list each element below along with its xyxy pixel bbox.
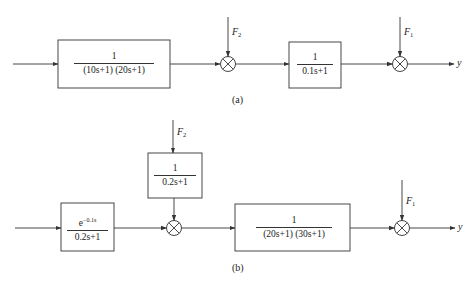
- b-f2-label: F2: [177, 127, 186, 140]
- b-block-main-transfer-function: 1 (20s+1) (30s+1): [256, 215, 332, 240]
- a-f2-label: F2: [232, 27, 241, 40]
- a-f1-label: F1: [404, 27, 413, 40]
- a-block2-transfer-function: 1 0.1s+1: [297, 52, 333, 77]
- b-block-delay-transfer-function: e−0.1s 0.2s+1: [67, 215, 108, 243]
- a-summing-junction-2: [393, 57, 408, 72]
- b-block-dist-transfer-function: 1 0.2s+1: [154, 163, 196, 188]
- b-f1-label: F1: [406, 196, 415, 209]
- b-caption: (b): [232, 262, 244, 273]
- a-caption: (a): [232, 94, 243, 105]
- a-block1-transfer-function: 1 (10s+1) (20s+1): [74, 51, 154, 76]
- a-summing-junction-1: [221, 57, 236, 72]
- b-summing-junction-2: [395, 221, 410, 236]
- a-output-label: y: [457, 58, 461, 68]
- b-summing-junction-1: [167, 221, 182, 236]
- b-output-label: y: [458, 222, 462, 232]
- block-diagram-canvas: [0, 0, 470, 288]
